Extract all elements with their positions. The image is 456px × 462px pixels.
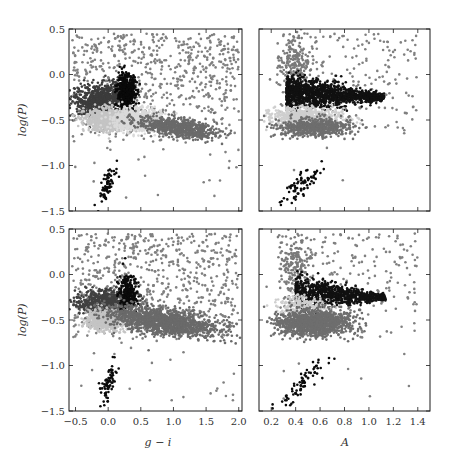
x-tick-label: 0.5 [133, 416, 149, 427]
series-group-mid [225, 301, 368, 343]
y-tick-label: −1.5 [41, 206, 65, 217]
y-tick-label: 0.5 [49, 24, 65, 35]
scatter-points [63, 232, 247, 407]
panel-bottom-left-gi-vs-logp: −0.50.00.51.01.52.00.50.0−0.5−1.0−1.5 [41, 224, 247, 428]
y-tick-label: −1.0 [41, 160, 65, 171]
x-tick-label: −0.5 [63, 416, 87, 427]
x-tick-label: 0.4 [288, 416, 304, 427]
series-short-period-clump [93, 159, 120, 212]
y-axis-label-bottom: log(P) [16, 303, 29, 336]
scatter-points [55, 33, 240, 213]
x-tick-label: 0.6 [312, 416, 328, 427]
x-tick-label: 0.0 [100, 416, 116, 427]
scatter-points [255, 28, 418, 206]
y-tick-label: −1.5 [41, 406, 65, 417]
x-axis-label-left: g − i [145, 436, 172, 449]
x-tick-label: 2.0 [231, 416, 247, 427]
panel-top-left-gi-vs-logp: 0.50.0−0.5−1.0−1.5 [41, 24, 242, 217]
y-axis-label-top: log(P) [16, 103, 29, 136]
x-tick-label: 0.8 [337, 416, 353, 427]
x-tick-label: 1.2 [385, 416, 401, 427]
y-tick-label: 0.0 [49, 269, 65, 280]
series-short-period-clump [271, 357, 335, 410]
x-tick-label: 1.0 [361, 416, 377, 427]
y-tick-label: 0.5 [49, 224, 65, 235]
y-tick-label: −0.5 [41, 315, 65, 326]
x-tick-label: 1.5 [198, 416, 214, 427]
y-tick-label: 0.0 [49, 69, 65, 80]
x-axis-label-right: A [340, 436, 349, 449]
y-tick-label: −1.0 [41, 360, 65, 371]
x-tick-label: 1.0 [165, 416, 181, 427]
panel-bottom-right-a-vs-logp: 0.20.40.60.81.01.21.4 [225, 228, 430, 427]
figure: 0.50.0−0.5−1.0−1.5 −0.50.00.51.01.52.00.… [0, 0, 456, 462]
series-short-period-clump [98, 356, 120, 408]
series-short-period-clump [279, 160, 325, 206]
y-tick-label: −0.5 [41, 115, 65, 126]
scatter-points [225, 228, 419, 409]
x-tick-label: 1.4 [410, 416, 426, 427]
x-tick-label: 0.2 [263, 416, 279, 427]
panel-top-right-a-vs-logp [255, 28, 431, 211]
